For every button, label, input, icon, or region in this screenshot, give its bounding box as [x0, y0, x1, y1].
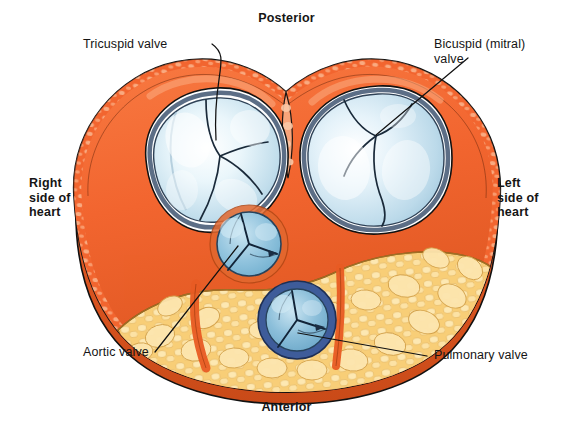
figure-canvas: Posterior Anterior Right side of heart L… [0, 0, 573, 433]
callout-label-aortic-valve: Aortic valve [83, 345, 149, 360]
orientation-label-anterior: Anterior [0, 400, 573, 415]
orientation-label-left-side-of-heart: Left side of heart [497, 176, 539, 220]
pulmonary-valve [258, 281, 336, 359]
orientation-label-right-side-of-heart: Right side of heart [29, 176, 71, 220]
callout-label-pulmonary-valve: Pulmonary valve [434, 348, 528, 363]
callout-label-tricuspid-valve: Tricuspid valve [83, 37, 167, 52]
bicuspid-mitral-valve [300, 86, 452, 234]
orientation-label-posterior: Posterior [0, 11, 573, 26]
callout-label-bicuspid-mitral-valve: Bicuspid (mitral) valve [434, 37, 525, 66]
aortic-valve [210, 205, 288, 283]
